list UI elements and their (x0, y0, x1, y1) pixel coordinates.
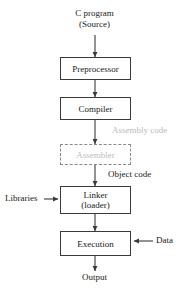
output-text: Output (0, 272, 189, 283)
node-assembler[interactable]: Assembler (60, 144, 131, 165)
node-preprocessor[interactable]: Preprocessor (60, 57, 131, 80)
edge-label-assembly-code: Assembly code (112, 125, 167, 136)
node-linker-label-line1: Linker (84, 190, 108, 200)
source-program-line1: C program (0, 8, 189, 19)
node-preprocessor-label: Preprocessor (72, 64, 119, 74)
edge-label-libraries: Libraries (5, 193, 37, 204)
node-execution-label: Execution (77, 239, 114, 249)
edge-label-output: Output (0, 272, 189, 283)
edge-label-data: Data (156, 235, 173, 246)
edge-label-object-code: Object code (108, 169, 151, 180)
node-assembler-label: Assembler (76, 150, 115, 160)
c-compilation-flow-diagram: C program (Source) Preprocessor Compiler… (0, 0, 189, 291)
node-linker-label-line2: (loader) (81, 200, 109, 210)
node-execution[interactable]: Execution (60, 231, 131, 256)
source-program-line2: (Source) (0, 19, 189, 30)
node-compiler-label: Compiler (79, 104, 113, 114)
node-linker[interactable]: Linker (loader) (60, 186, 131, 214)
source-program-label: C program (Source) (0, 8, 189, 30)
node-compiler[interactable]: Compiler (60, 97, 131, 120)
